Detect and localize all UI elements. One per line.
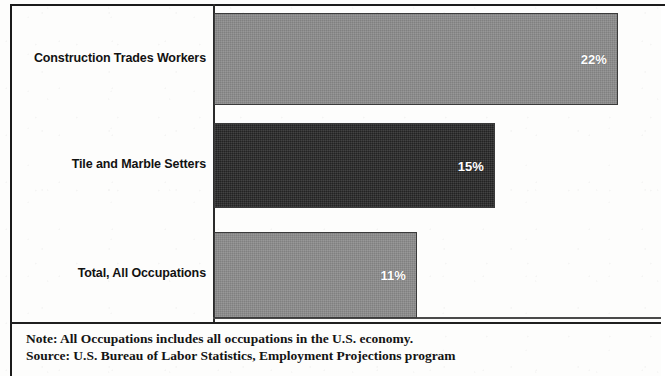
- category-label-construction-trades-workers: Construction Trades Workers: [10, 51, 206, 65]
- footnote-divider: [10, 322, 661, 324]
- bar-chart-plot-area: Construction Trades Workers 22% Tile and…: [10, 4, 661, 323]
- chart-row: Tile and Marble Setters 15%: [10, 123, 661, 208]
- bar-value-label-total-all-occupations: 11%: [380, 268, 406, 283]
- category-label-tile-and-marble-setters: Tile and Marble Setters: [10, 157, 206, 171]
- chart-row: Total, All Occupations 11%: [10, 232, 661, 318]
- footnote-block: Note: All Occupations includes all occup…: [26, 331, 646, 364]
- bar-total-all-occupations: 11%: [214, 232, 417, 318]
- footnote-source: Source: U.S. Bureau of Labor Statistics,…: [26, 348, 646, 365]
- bar-value-label-tile-and-marble-setters: 15%: [458, 158, 484, 173]
- bar-tile-and-marble-setters: 15%: [214, 123, 495, 208]
- chart-row: Construction Trades Workers 22%: [10, 13, 661, 105]
- category-label-total-all-occupations: Total, All Occupations: [10, 266, 206, 280]
- bar-construction-trades-workers: 22%: [214, 13, 618, 105]
- footnote-note: Note: All Occupations includes all occup…: [26, 331, 646, 348]
- bar-value-label-construction-trades-workers: 22%: [581, 52, 607, 67]
